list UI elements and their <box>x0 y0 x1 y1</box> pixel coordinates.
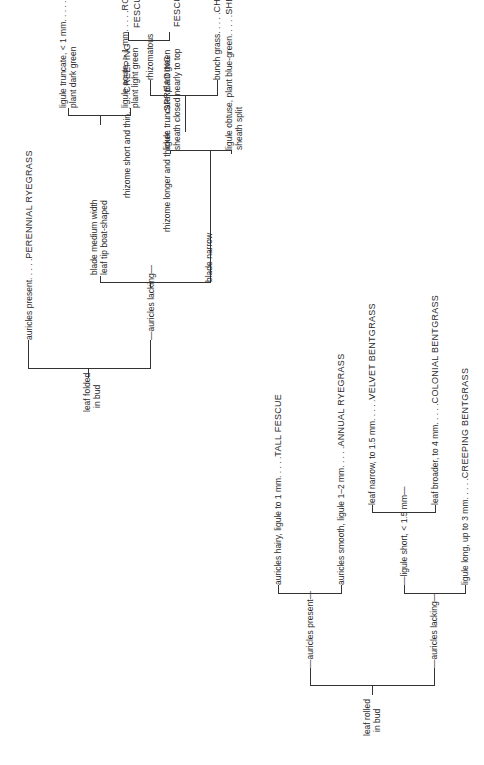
species-spreading-fescue: SPREADING <box>162 55 172 111</box>
rolled-annual: auricles smooth, ligule 1–2 mm. . . . .A… <box>336 354 346 585</box>
folded-auricles-present: auricles present. . . . .PERENNIAL RYEGR… <box>24 150 34 340</box>
folded-root-label: leaf foldedin bud <box>82 373 102 412</box>
rolled-velvet: leaf narrow, to 1.5 mm. . . . .VELVET BE… <box>367 303 377 505</box>
species-creeping-bentgrass: CREEPING BENTGRASS <box>460 368 470 478</box>
folded-kentucky: ligule truncate, < 1 mm. . . . .KENTUCKY… <box>58 0 78 108</box>
folded-auricles-lacking: —auricles lacking— <box>146 265 156 340</box>
species-velvet-bentgrass: VELVET BENTGRASS <box>367 303 377 400</box>
folded-blade-narrow: blade narrow <box>204 233 214 282</box>
rolled-tall-fescue: auricles hairy, ligule to 1 mm. . . . .T… <box>273 394 283 585</box>
rolled-creeping-bent: ligule long, up to 3 mm. . . . .CREEPING… <box>460 368 470 585</box>
folded-creeping-fescue: rhizome short and thin. . . . .CREEPINGF… <box>122 0 142 198</box>
species-sheeps-fescue: SHEEP'S FESCUE <box>224 0 234 15</box>
rolled-root-label: leaf rolledin bud <box>362 699 382 736</box>
rolled-ligule-short: —ligule short, < 1.5 mm— <box>399 487 409 586</box>
folded-blade-medium: blade medium widthleaf tip boat-shaped <box>89 199 109 275</box>
rolled-auricles-lacking: —auricles lacking— <box>429 593 439 668</box>
species-tall-fescue: TALL FESCUE <box>273 394 283 457</box>
rolled-auricles-present: —auricles present— <box>305 591 315 668</box>
folded-chewings: bunch grass. . . . .CHEWINGS FESCUE <box>212 0 222 80</box>
species-kentucky-bluegrass: KENTUCKY BLUEGRASS <box>58 0 68 1</box>
species-colonial-bentgrass: COLONIAL BENTGRASS <box>430 295 440 404</box>
species-annual-ryegrass: ANNUAL RYEGRASS <box>336 354 346 447</box>
folded-sheeps: ligule obtuse, plant blue-green. . . . .… <box>224 0 244 150</box>
folded-spreading-fescue: rhizome longer and thicker. . . . .SPREA… <box>162 0 182 232</box>
rolled-colonial: leaf broader, to 4 mm. . . . .COLONIAL B… <box>430 295 440 505</box>
species-perennial-ryegrass: PERENNIAL RYEGRASS <box>24 150 34 258</box>
species-creeping-fescue: CREEPING <box>122 43 132 92</box>
species-chewings-fescue: CHEWINGS FESCUE <box>212 0 222 12</box>
